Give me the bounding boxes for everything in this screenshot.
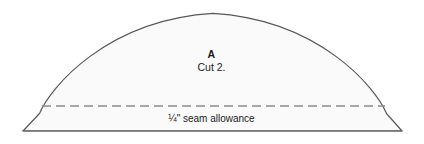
pattern-piece-shape [0,0,424,144]
piece-outline-path [23,13,402,131]
pattern-diagram-canvas: A Cut 2. ¼" seam allowance [0,0,424,144]
